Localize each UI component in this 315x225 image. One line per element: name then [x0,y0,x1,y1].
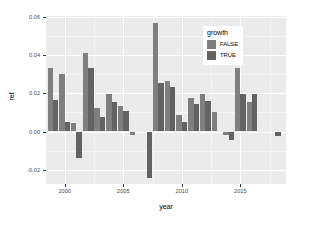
y-tick-label: 0.04 [16,52,40,58]
gridline-y-minor [46,36,286,37]
bar [205,101,210,131]
gridline-y-major [46,170,286,171]
y-tick-label: 0.02 [16,90,40,96]
legend-item-label: TRUE [220,52,236,59]
x-axis-title: year [46,203,286,210]
bar [88,68,93,131]
gridline-x-minor [94,16,95,184]
bar [170,87,175,131]
legend-key-swatch [207,51,216,60]
x-tick-mark [65,184,66,187]
gridline-x-major [182,16,183,184]
bar [123,111,128,131]
gridline-x-major [65,16,66,184]
chart-root: ret 0.060.040.020.00-0.02 20002005201020… [0,0,315,225]
bar [252,94,257,131]
plot-panel [46,16,286,184]
legend-item[interactable]: FALSE [207,39,238,50]
bar [112,102,117,132]
bar [53,100,58,131]
legend-item-label: FALSE [220,41,238,48]
legend-key-swatch [207,40,216,49]
x-tick-label: 2015 [225,188,255,194]
bar [76,132,81,158]
bar [275,132,280,136]
bar [212,112,217,131]
x-tick-label: 2000 [50,188,80,194]
y-tick-label: 0.00 [16,129,40,135]
legend-title: growth [207,29,238,37]
legend-item[interactable]: TRUE [207,50,238,61]
legend-items: FALSETRUE [207,39,238,61]
gridline-x-minor [270,16,271,184]
x-tick-mark [182,184,183,187]
x-tick-label: 2005 [108,188,138,194]
bar [147,132,152,178]
gridline-x-major [123,16,124,184]
y-axis-title: ret [8,77,15,117]
gridline-y-major [46,17,286,18]
x-tick-mark [240,184,241,187]
y-tick-label: -0.02 [16,167,40,173]
bar [65,122,70,131]
bar [71,123,76,132]
bar [158,83,163,131]
gridline-y-minor [46,151,286,152]
legend: growth FALSETRUE [203,26,243,65]
gridline-y-major [46,132,286,133]
bar [240,94,245,131]
x-tick-label: 2010 [167,188,197,194]
bar [100,117,105,131]
y-tick-label: 0.06 [16,14,40,20]
bar [229,132,234,141]
x-tick-mark [123,184,124,187]
bar [130,132,135,135]
bar [194,104,199,131]
bar [182,122,187,132]
